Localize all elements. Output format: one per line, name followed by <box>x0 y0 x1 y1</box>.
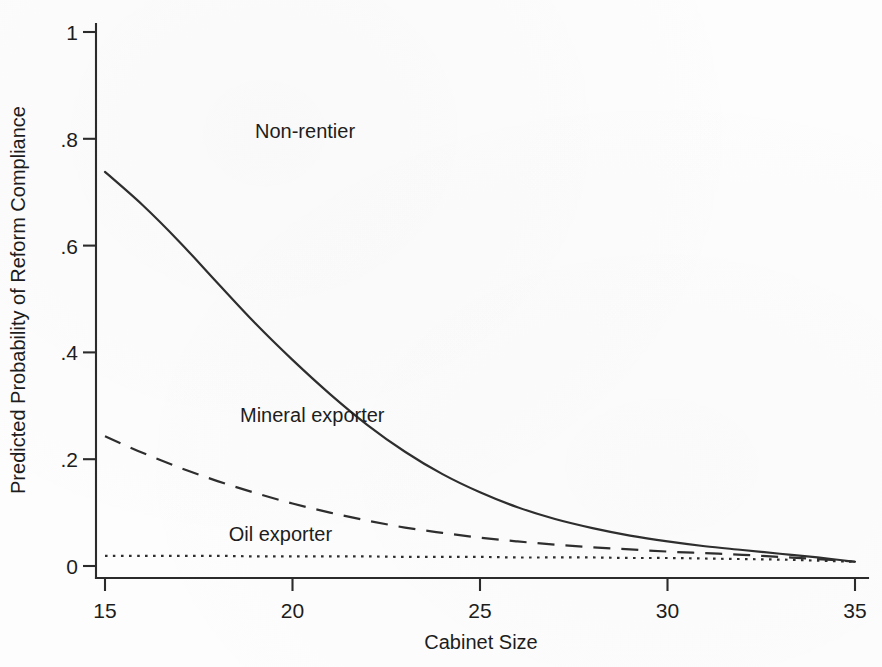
x-axis-tick-label: 35 <box>843 600 866 621</box>
x-axis-title: Cabinet Size <box>424 632 537 652</box>
x-axis-tick-label: 20 <box>281 600 304 621</box>
series-line-non-rentier <box>105 172 855 562</box>
x-axis-tick-label: 25 <box>468 600 491 621</box>
data-series-group <box>105 172 855 562</box>
y-axis-ticks <box>83 32 96 566</box>
series-label-oil-exporter: Oil exporter <box>229 524 332 544</box>
y-axis-tick-label: .8 <box>30 128 78 149</box>
x-axis-tick-label: 15 <box>93 600 116 621</box>
plot-canvas <box>0 0 882 667</box>
series-line-oil-exporter <box>105 556 855 562</box>
x-axis-ticks <box>105 578 855 591</box>
series-line-mineral-exporter <box>105 436 855 561</box>
series-label-mineral-exporter: Mineral exporter <box>240 405 385 425</box>
y-axis-tick-label: .6 <box>30 235 78 256</box>
chart-figure: 0.2.4.6.81 1520253035 Non-rentierMineral… <box>0 0 882 667</box>
y-axis-tick-label: .4 <box>30 342 78 363</box>
x-axis-tick-label: 30 <box>656 600 679 621</box>
series-label-non-rentier: Non-rentier <box>255 121 355 141</box>
y-axis-tick-label: .2 <box>30 449 78 470</box>
y-axis-title: Predicted Probability of Reform Complian… <box>8 106 28 494</box>
axes-group <box>83 24 868 591</box>
y-axis-tick-label: 0 <box>30 556 78 577</box>
y-axis-tick-label: 1 <box>30 22 78 43</box>
